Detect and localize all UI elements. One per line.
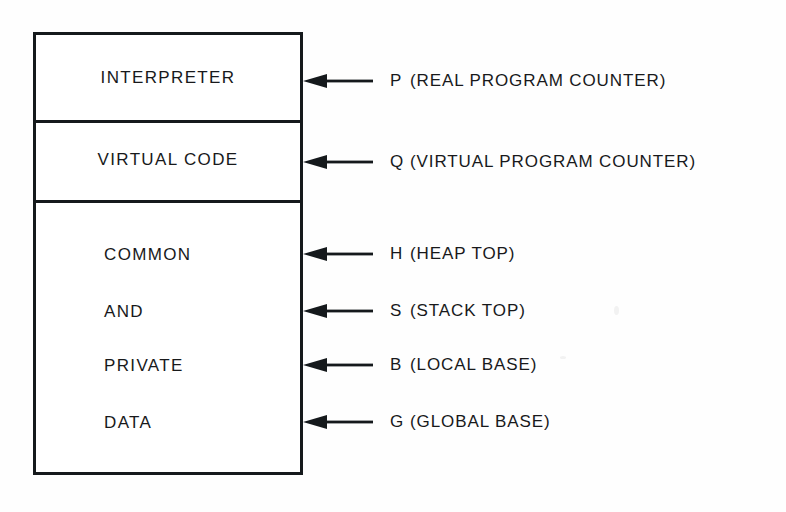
diagram-canvas: INTERPRETER VIRTUAL CODE COMMON AND PRIV… [0, 0, 786, 512]
pointer-symbol-s: S [390, 302, 410, 319]
pointer-description-s: (STACK TOP) [410, 302, 526, 319]
left-arrow-icon [303, 154, 373, 170]
scan-speckle [614, 306, 619, 315]
section-label-data: DATA [104, 414, 152, 431]
pointer-symbol-g: G [390, 413, 410, 430]
pointer-description-b: (LOCAL BASE) [410, 356, 537, 373]
pointer-label-h: H(HEAP TOP) [390, 245, 515, 262]
divider-below-interpreter [33, 120, 303, 123]
section-label-interpreter: INTERPRETER [33, 69, 303, 86]
section-label-common: COMMON [104, 246, 191, 263]
section-label-private: PRIVATE [104, 357, 184, 374]
pointer-description-g: (GLOBAL BASE) [410, 413, 551, 430]
pointer-symbol-q: Q [390, 153, 410, 170]
left-arrow-icon [303, 414, 373, 430]
left-arrow-icon [303, 73, 373, 89]
divider-below-virtual-code [33, 200, 303, 203]
pointer-symbol-b: B [390, 356, 410, 373]
pointer-symbol-h: H [390, 245, 410, 262]
pointer-label-s: S(STACK TOP) [390, 302, 526, 319]
left-arrow-icon [303, 357, 373, 373]
section-label-virtual-code: VIRTUAL CODE [33, 151, 303, 168]
section-label-and: AND [104, 303, 144, 320]
scan-speckle [560, 356, 566, 359]
pointer-description-h: (HEAP TOP) [410, 245, 515, 262]
pointer-description-p: (REAL PROGRAM COUNTER) [410, 72, 666, 89]
pointer-symbol-p: P [390, 72, 410, 89]
left-arrow-icon [303, 246, 373, 262]
pointer-label-g: G(GLOBAL BASE) [390, 413, 551, 430]
pointer-label-q: Q(VIRTUAL PROGRAM COUNTER) [390, 153, 696, 170]
pointer-label-p: P(REAL PROGRAM COUNTER) [390, 72, 666, 89]
pointer-description-q: (VIRTUAL PROGRAM COUNTER) [410, 153, 696, 170]
pointer-label-b: B(LOCAL BASE) [390, 356, 537, 373]
left-arrow-icon [303, 303, 373, 319]
